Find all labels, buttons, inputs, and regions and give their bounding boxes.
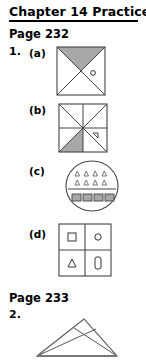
figure-b-square-eighths xyxy=(58,103,108,153)
page-title: Chapter 14 Practice xyxy=(9,4,139,19)
part-label-d: (d) xyxy=(29,228,46,240)
triangle-icon xyxy=(102,180,107,185)
figure-a-square-diagonals xyxy=(56,46,106,96)
circle-mark-icon xyxy=(91,71,96,76)
triangle-icon xyxy=(75,171,80,176)
triangle-icon xyxy=(102,171,107,176)
circle-icon xyxy=(95,234,101,240)
rectangle-icon xyxy=(94,194,103,201)
triangle-icon xyxy=(84,180,89,185)
triangle-icon xyxy=(93,180,98,185)
item-number-2: 2. xyxy=(9,309,21,321)
header-divider xyxy=(9,20,138,22)
rectangle-icon xyxy=(105,194,114,201)
triangle-icon xyxy=(93,171,98,176)
part-label-a: (a) xyxy=(29,47,46,59)
rectangle-icon xyxy=(83,194,92,201)
triangle-group-row-1 xyxy=(75,171,107,176)
triangle-icon xyxy=(75,180,80,185)
triangle-group-row-2 xyxy=(75,180,107,185)
triangle-icon xyxy=(84,171,89,176)
part-label-c: (c) xyxy=(29,165,45,177)
item-number-1: 1. xyxy=(9,46,21,58)
shaded-top-triangle xyxy=(57,47,105,71)
vertical-bar-icon xyxy=(95,257,101,269)
part-label-b: (b) xyxy=(29,104,46,116)
rectangle-group xyxy=(72,194,114,201)
square-icon xyxy=(68,233,76,241)
figure-d-four-cell-grid xyxy=(58,223,112,277)
figure-2-triangle-cevians xyxy=(34,316,120,360)
worksheet-page: Chapter 14 Practice Page 232 1. (a) (b) … xyxy=(0,0,146,362)
page-header: Chapter 14 Practice xyxy=(9,4,139,22)
triangle-mark-icon xyxy=(93,133,98,138)
circle-outline xyxy=(66,161,118,211)
rectangle-icon xyxy=(72,194,81,201)
section-label-page-233: Page 233 xyxy=(9,292,69,305)
section-label-page-232: Page 232 xyxy=(9,28,69,41)
figure-c-circle-sets xyxy=(64,160,120,212)
triangle-icon xyxy=(68,259,76,267)
